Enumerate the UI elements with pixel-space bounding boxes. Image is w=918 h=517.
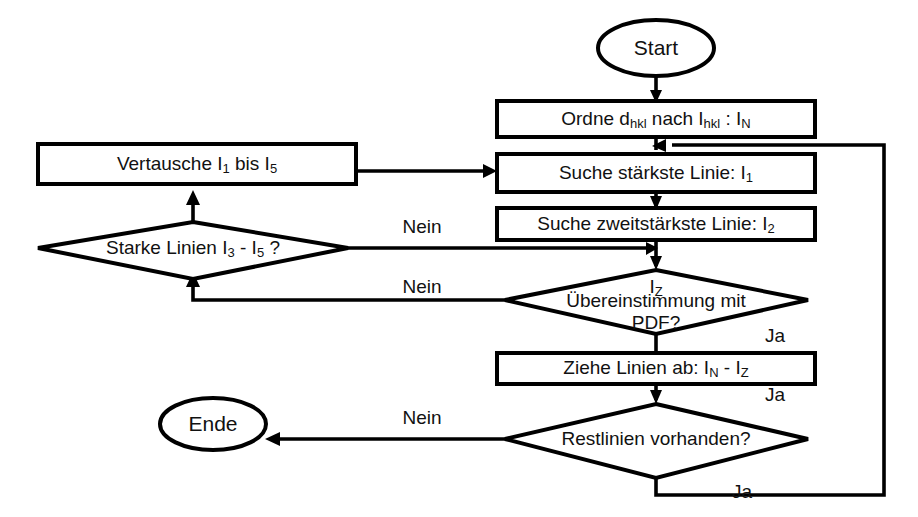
node-vertausche[interactable]: Vertausche I1 bis I5 — [38, 144, 356, 184]
arrowhead-starke-to-vertausche — [186, 190, 200, 205]
node-ziehe-linien[interactable]: Ziehe Linien ab: IN - IZ — [497, 353, 815, 384]
ziehe-linien-label: Ziehe Linien ab: IN - IZ — [563, 357, 748, 380]
arrowhead-restlinien-nein — [265, 432, 280, 446]
suche-staerkste-label: Suche stärkste Linie: I1 — [559, 162, 753, 185]
node-uebereinstimmung[interactable]: IZ Übereinstimmung mit PDF? — [505, 270, 808, 334]
ende-label: Ende — [188, 412, 237, 435]
node-restlinien[interactable]: Restlinien vorhanden? — [505, 404, 808, 478]
edge-label-ziehe-ja: Ja — [765, 384, 786, 405]
node-suche-zweitstaerkste[interactable]: Suche zweitstärkste Linie: I2 — [497, 208, 815, 240]
node-starke-linien[interactable]: Starke Linien I3 - I5 ? — [38, 222, 348, 279]
edge-label-starke-nein: Nein — [402, 216, 441, 237]
node-start[interactable]: Start — [598, 20, 714, 76]
uebereinstimmung-line2: PDF? — [632, 312, 681, 333]
suche-zweitstaerkste-label: Suche zweitstärkste Linie: I2 — [537, 213, 774, 236]
node-ordne[interactable]: Ordne dhkl nach Ihkl : IN — [497, 101, 815, 137]
arrowhead-vertausche-to-suche1 — [483, 164, 497, 178]
ordne-label: Ordne dhkl nach Ihkl : IN — [561, 108, 750, 131]
edge-label-uebereinstimmung-ja: Ja — [765, 325, 786, 346]
restlinien-label: Restlinien vorhanden? — [561, 428, 750, 449]
edge-label-restlinien-nein: Nein — [402, 407, 441, 428]
node-suche-staerkste[interactable]: Suche stärkste Linie: I1 — [497, 154, 815, 192]
edge-label-restlinien-ja: Ja — [732, 481, 753, 502]
edge-uebereinstimmung-nein — [193, 280, 505, 300]
uebereinstimmung-line1: Übereinstimmung mit — [566, 290, 746, 311]
arrowhead-ziehe-to-restlinien — [650, 390, 662, 404]
flowchart-canvas: Start Ordne dhkl nach Ihkl : IN Suche st… — [0, 0, 918, 517]
starke-linien-label: Starke Linien I3 - I5 ? — [106, 237, 280, 260]
vertausche-label: Vertausche I1 bis I5 — [117, 153, 277, 176]
start-label: Start — [634, 36, 679, 59]
arrowhead-restlinien-ja-loop — [652, 139, 666, 152]
node-ende[interactable]: Ende — [160, 398, 266, 450]
edge-label-uebereinstimmung-nein: Nein — [402, 276, 441, 297]
flowchart-svg: Start Ordne dhkl nach Ihkl : IN Suche st… — [0, 0, 918, 517]
arrowhead-suche2-to-uebereinstimmung — [650, 256, 662, 270]
